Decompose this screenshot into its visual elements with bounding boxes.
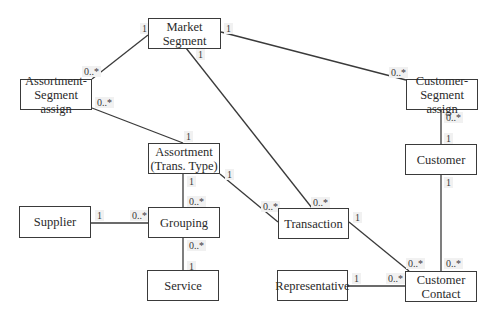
association-assortment-to-transaction	[220, 174, 278, 222]
association-transaction-to-customer-contact	[349, 222, 409, 271]
entity-label-line: Representative	[275, 279, 349, 293]
multiplicity-label: 1	[353, 212, 362, 223]
multiplicity-label: 0..*	[389, 67, 408, 78]
multiplicity-label: 1	[187, 176, 196, 187]
association-assortment-to-assortment-segment-assign	[92, 108, 183, 143]
entity-transaction: Transaction	[278, 208, 349, 239]
multiplicity-label: 1	[95, 210, 104, 221]
multiplicity-label: 1	[444, 133, 453, 144]
multiplicity-label: 0..*	[386, 273, 405, 284]
entity-label-line: Segment assign	[407, 88, 477, 116]
entity-label-line: Customer-	[407, 74, 477, 88]
uml-diagram: 1110..*0..*0..*10..*1110..*110..*0..*0..…	[0, 0, 497, 320]
entity-label-line: Transaction	[284, 217, 343, 231]
entity-assortment: Assortment(Trans. Type)	[148, 143, 220, 174]
entity-label-line: Assortment-	[21, 74, 91, 88]
multiplicity-label: 0..*	[187, 240, 206, 251]
entity-customer-contact: CustomerContact	[405, 271, 477, 302]
entity-customer-segment-assign: Customer-Segment assign	[406, 79, 478, 110]
entity-service: Service	[147, 270, 219, 301]
entity-label-line: Segment	[163, 34, 207, 48]
multiplicity-label: 0..*	[187, 196, 206, 207]
multiplicity-label: 1	[196, 49, 205, 60]
association-market-segment-to-transaction	[186, 48, 312, 208]
entity-market-segment: MarketSegment	[148, 18, 221, 49]
entity-label-line: Service	[164, 279, 201, 293]
multiplicity-label: 0..*	[311, 197, 330, 208]
entity-assortment-segment-assign: Assortment-Segment assign	[20, 79, 92, 110]
multiplicity-label: 1	[224, 23, 233, 34]
multiplicity-label: 1	[444, 177, 453, 188]
multiplicity-label: 0..*	[130, 210, 149, 221]
entity-label-line: Customer	[417, 273, 466, 287]
entity-representative: Representative	[277, 270, 348, 301]
multiplicity-label: 1	[184, 131, 193, 142]
multiplicity-label: 1	[225, 169, 234, 180]
entity-customer: Customer	[405, 144, 477, 175]
entity-label-line: Customer	[417, 153, 466, 167]
entity-label-line: Contact	[417, 287, 466, 301]
entity-label-line: Grouping	[160, 216, 208, 230]
entity-label-line: Assortment	[150, 145, 217, 159]
entity-grouping: Grouping	[148, 207, 220, 238]
association-market-segment-to-customer-segment-assign	[221, 32, 406, 80]
multiplicity-label: 0..*	[406, 258, 425, 269]
entity-supplier: Supplier	[19, 206, 91, 238]
multiplicity-label: 1	[352, 273, 361, 284]
entity-label-line: (Trans. Type)	[150, 159, 217, 173]
multiplicity-label: 0..*	[95, 97, 114, 108]
entity-label-line: Segment assign	[21, 88, 91, 116]
multiplicity-label: 0..*	[444, 258, 463, 269]
entity-label-line: Supplier	[34, 215, 76, 229]
entity-label-line: Market	[163, 20, 207, 34]
